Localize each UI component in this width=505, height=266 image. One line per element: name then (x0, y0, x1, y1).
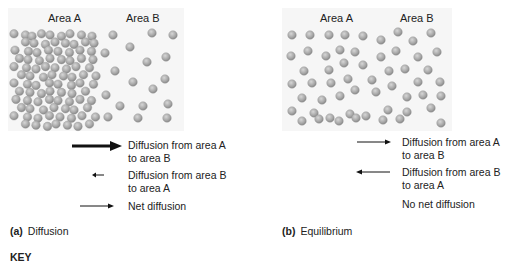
panel-a-caption: (a)Diffusion (10, 225, 69, 237)
panel-a-legend-2: Diffusion from area B to area A (128, 169, 226, 195)
panel-b-legend-3: No net diffusion (402, 198, 475, 211)
short-left-arrow-icon (92, 172, 104, 178)
panel-b-caption-text: Equilibrium (300, 225, 352, 237)
key-heading: KEY (10, 251, 32, 263)
thick-right-arrow-icon (72, 141, 122, 151)
panel-b-caption: (b)Equilibrium (282, 225, 352, 237)
thin-right-arrow-icon (80, 203, 114, 209)
panel-b-legend-1: Diffusion from area A to area B (402, 136, 500, 162)
panel-a-legend-3: Net diffusion (128, 200, 186, 213)
panel-a-caption-text: Diffusion (28, 225, 69, 237)
panel-a-legend-1: Diffusion from area A to area B (128, 139, 226, 165)
left-arrow-icon (356, 169, 390, 175)
right-arrow-icon (357, 139, 391, 145)
panel-a-caption-letter: (a) (10, 225, 23, 237)
panel-b-caption-letter: (b) (282, 225, 295, 237)
panel-b-particles (0, 0, 505, 266)
panel-b-legend-2: Diffusion from area B to area A (402, 166, 500, 192)
